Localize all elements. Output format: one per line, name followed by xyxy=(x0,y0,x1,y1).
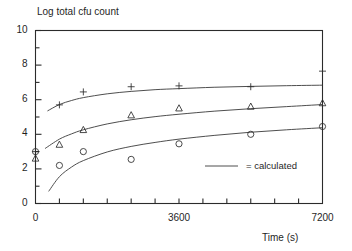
y-tick-label: 8 xyxy=(6,58,28,69)
y-tick-label: 0 xyxy=(6,197,28,208)
data-points xyxy=(32,68,326,169)
x-tick-label: 7200 xyxy=(303,212,343,223)
y-tick-label: 6 xyxy=(6,93,28,104)
y-tick-label: 2 xyxy=(6,162,28,173)
y-tick-label: 10 xyxy=(6,24,28,35)
plot-frame xyxy=(36,31,323,204)
axis-ticks xyxy=(36,31,299,204)
x-tick-label: 3600 xyxy=(159,212,199,223)
chart-figure: Log total cfu count Time (s) = calculate… xyxy=(0,0,352,251)
x-tick-label: 0 xyxy=(16,212,56,223)
fit-curves xyxy=(45,85,322,191)
y-tick-label: 4 xyxy=(6,127,28,138)
